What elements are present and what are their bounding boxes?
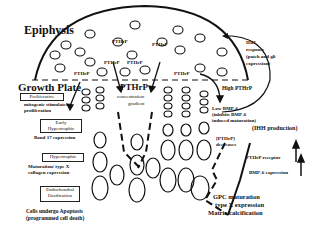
ihh-response-3: (patch and gli xyxy=(246,54,275,59)
pthrp-decreases-1: [PTHrP] xyxy=(216,136,235,141)
zone-proliferative: Proliferative xyxy=(20,93,64,101)
zone-endochondral: EndochondralOssification xyxy=(40,186,80,202)
pthrp-label: PTHrP xyxy=(74,71,90,76)
pthrp-receptor-note: PTHrP receptor xyxy=(246,155,280,160)
ihh-response-2: response xyxy=(246,47,265,52)
mitogenic-note-1: mitogenic stimulates xyxy=(24,102,68,107)
zone-endochondral-label: Endochondral xyxy=(46,187,74,192)
pthrp-label: PTHrP xyxy=(174,71,190,76)
band17-note: Band 17 expression xyxy=(34,135,75,140)
mitogenic-note-2: proliferation xyxy=(24,108,51,113)
gpc-note-3: Matrix calcification xyxy=(208,210,263,217)
pthrp-decreases-2: decreases xyxy=(216,142,236,147)
zone-ossification-label: Ossification xyxy=(48,193,72,198)
concentration-label: concentration xyxy=(117,94,144,99)
gpc-note-1: GPC maturation xyxy=(213,194,260,201)
zone-hypertrophic-label: Hypertrophic xyxy=(48,126,75,131)
ihh-production-note: (IHH production) xyxy=(252,125,297,131)
pthrp-label: PTHrP xyxy=(104,60,120,65)
gradient-label: gradient xyxy=(128,101,144,106)
low-bmp-note-3: induced maturation) xyxy=(212,118,256,123)
low-bmp-note-2: (inhibits BMP-6 xyxy=(212,112,246,117)
pthrp-label: PTHrP xyxy=(127,60,143,65)
low-bmp-note-1: Low BMP-6 xyxy=(212,106,238,111)
growth-plate-title: Growth Plate xyxy=(18,82,81,93)
pthrp-center-label: PTHrP xyxy=(120,83,148,92)
pthrp-label: PTHrP xyxy=(152,42,168,47)
ihh-response-1: IHH xyxy=(246,40,256,45)
zone-proliferative-label: Proliferative xyxy=(30,94,55,99)
epiphysis-boundary xyxy=(35,6,248,80)
epiphysis-title: Epiphysis xyxy=(24,24,74,36)
hypertrophic-cells xyxy=(92,122,211,202)
apoptosis-note-1: Cells undergo Apoptosis xyxy=(26,209,83,215)
pthrp-label: PTHrP xyxy=(112,39,128,44)
maturation-note-2: collagen expression xyxy=(28,170,69,175)
epiphyseal-cells xyxy=(50,21,227,76)
increase-arrows xyxy=(293,141,304,176)
zone-hypertrophic-box-label: Hypertrophic xyxy=(50,154,77,159)
maturation-note-1: Maturation/ type X xyxy=(28,164,69,169)
zone-hypertrophic: Hypertrophic xyxy=(42,153,84,162)
apoptosis-note-2: (programmed cell death) xyxy=(26,216,84,222)
bmp6-expression-note: BMP-6 expression xyxy=(249,170,288,175)
high-pthrp-note: High PTHrP xyxy=(222,86,252,92)
zone-early-label: Early xyxy=(56,120,67,125)
zone-early-hypertrophic: EarlyHypertrophic xyxy=(40,119,82,133)
gpc-note-2: type X expression xyxy=(215,202,264,209)
ihh-response-4: expression) xyxy=(246,61,270,66)
